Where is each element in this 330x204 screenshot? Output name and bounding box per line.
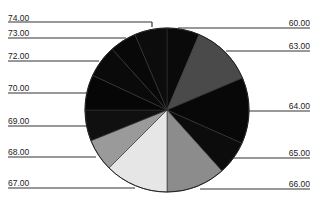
slice-label: 73.00 [8, 28, 29, 38]
slice-label: 60.00 [260, 18, 310, 28]
slice-label: 72.00 [8, 51, 29, 61]
slice-label: 68.00 [8, 147, 29, 157]
slice-label: 70.00 [8, 83, 29, 93]
slice-label: 64.00 [260, 101, 310, 111]
slice-label: 65.00 [260, 148, 310, 158]
pie-slices [85, 28, 249, 192]
slice-label: 63.00 [260, 41, 310, 51]
slice-label: 74.00 [8, 13, 29, 23]
slice-label: 67.00 [8, 178, 29, 188]
slice-label: 66.00 [260, 179, 310, 189]
slice-label: 69.00 [8, 116, 29, 126]
